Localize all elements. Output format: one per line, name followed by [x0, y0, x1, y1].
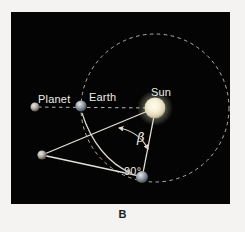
label-sun: Sun — [151, 86, 171, 98]
label-earth: Earth — [89, 91, 116, 103]
sky-panel: Planet Earth Sun β 90° — [11, 12, 230, 204]
label-beta-angle: β — [137, 130, 145, 145]
earth-opposition-body — [75, 100, 86, 111]
label-right-angle: 90° — [124, 165, 141, 177]
sun-body — [145, 98, 166, 119]
figure-container: Planet Earth Sun β 90° B — [0, 0, 245, 232]
panel-letter: B — [0, 208, 245, 220]
planet-vertex-body — [37, 150, 46, 159]
label-planet: Planet — [38, 93, 70, 105]
opposition-sight-line — [31, 107, 155, 108]
diagram-canvas — [11, 12, 230, 204]
